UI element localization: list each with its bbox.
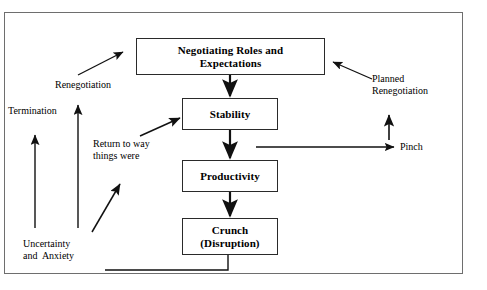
label-planned-renegotiation: Planned Renegotiation [372,73,428,97]
label-termination: Termination [8,105,57,117]
node-crunch-line2: (Disruption) [200,237,259,249]
node-crunch-disruption[interactable]: Crunch(Disruption) [182,218,278,255]
label-return-to-way-things-were: Return to way things were [93,138,150,162]
node-crunch-text: Crunch(Disruption) [200,224,259,250]
node-negotiating-line1: Negotiating Roles and [178,44,283,56]
node-stability-label: Stability [210,108,251,121]
label-renegotiation: Renegotiation [55,79,111,91]
label-pinch: Pinch [400,141,423,153]
node-negotiating-text: Negotiating Roles andExpectations [178,44,283,70]
node-crunch-line1: Crunch [212,224,249,236]
label-uncertainty-and-anxiety: Uncertainty and Anxiety [23,238,74,262]
node-productivity-label: Productivity [200,170,260,183]
diagram-canvas: Negotiating Roles andExpectations Stabil… [0,0,487,290]
node-productivity[interactable]: Productivity [182,160,278,192]
node-stability[interactable]: Stability [182,98,278,130]
node-negotiating-roles-and-expectations[interactable]: Negotiating Roles andExpectations [136,38,325,75]
node-negotiating-line2: Expectations [200,57,262,69]
